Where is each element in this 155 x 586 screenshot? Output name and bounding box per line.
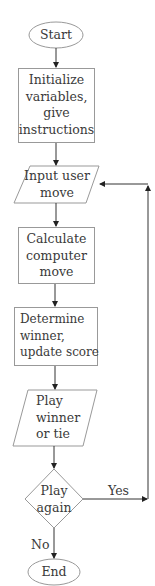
input-move-label: Input user move xyxy=(20,168,94,201)
play-line-3: or tie xyxy=(36,426,92,443)
init-line-3: give xyxy=(18,105,95,122)
again-line-2: again xyxy=(30,500,78,517)
determine-line-3: update score xyxy=(20,344,96,361)
calculate-label: Calculate computer move xyxy=(18,231,95,281)
initialize-label: Initialize variables, give instructions xyxy=(18,72,95,138)
init-line-4: instructions xyxy=(18,122,95,139)
yes-text: Yes xyxy=(108,483,129,498)
calc-line-1: Calculate xyxy=(18,231,95,248)
determine-line-2: winner, xyxy=(20,328,96,345)
end-text: End xyxy=(41,564,66,579)
end-label: End xyxy=(28,564,80,581)
play-again-label: Play again xyxy=(30,483,78,516)
play-line-2: winner xyxy=(36,410,92,427)
input-line-1: Input user xyxy=(20,168,94,185)
no-edge-label: No xyxy=(31,537,49,554)
calc-line-2: computer xyxy=(18,248,95,265)
init-line-1: Initialize xyxy=(18,72,95,89)
calc-line-3: move xyxy=(18,264,95,281)
start-text: Start xyxy=(40,27,72,42)
play-line-1: Play xyxy=(36,393,92,410)
play-winner-label: Play winner or tie xyxy=(36,393,92,443)
yes-edge-label: Yes xyxy=(108,483,129,500)
again-line-1: Play xyxy=(30,483,78,500)
determine-line-1: Determine xyxy=(20,311,96,328)
determine-label: Determine winner, update score xyxy=(20,311,96,361)
input-line-2: move xyxy=(20,185,94,202)
no-text: No xyxy=(31,537,49,552)
start-label: Start xyxy=(29,27,83,44)
init-line-2: variables, xyxy=(18,89,95,106)
